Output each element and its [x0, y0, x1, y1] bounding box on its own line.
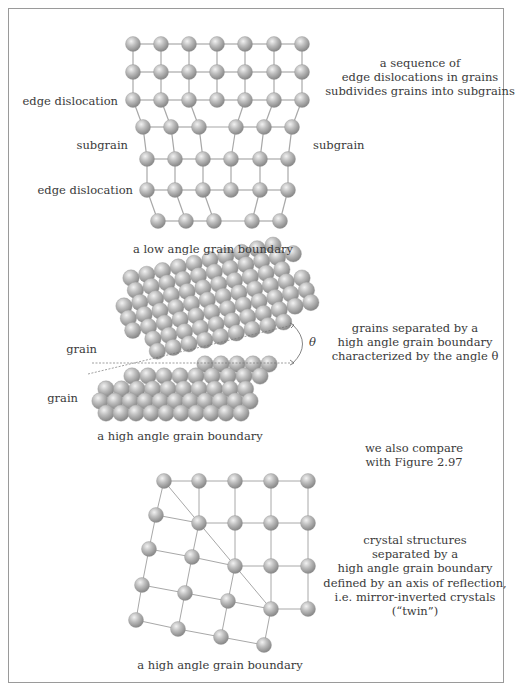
atom-icon — [295, 65, 310, 80]
atom-icon — [182, 65, 197, 80]
atom-icon — [168, 183, 183, 198]
description-line: a sequence of — [325, 56, 515, 70]
atom-icon — [165, 339, 181, 355]
atom-icon — [154, 93, 169, 108]
atom-icon — [196, 183, 211, 198]
atom-icon — [295, 37, 310, 52]
atom-icon — [142, 542, 157, 557]
atom-icon — [168, 152, 183, 167]
atom-icon — [154, 65, 169, 80]
atom-icon — [182, 93, 197, 108]
atom-icon — [210, 65, 225, 80]
low-angle-description: a sequence of edge dislocations in grain… — [325, 56, 515, 99]
grain-label-bottom: grain — [47, 391, 78, 405]
atom-icon — [238, 93, 253, 108]
atom-icon — [192, 120, 207, 135]
description-line: high angle grain boundary — [332, 335, 499, 349]
atom-icon — [281, 183, 296, 198]
atom-icon — [264, 516, 279, 531]
atom-icon — [207, 214, 222, 229]
atom-icon — [135, 578, 150, 593]
atom-icon — [192, 474, 207, 489]
atom-icon — [224, 183, 239, 198]
atom-icon — [149, 343, 165, 359]
atom-icon — [264, 559, 279, 574]
atom-icon — [173, 405, 189, 421]
note-line: we also compare — [365, 441, 463, 455]
atom-icon — [267, 65, 282, 80]
atom-icon — [264, 474, 279, 489]
twin-description: crystal structures separated by a high a… — [323, 533, 506, 618]
atom-icon — [214, 630, 229, 645]
high-angle-caption: a high angle grain boundary — [97, 429, 263, 443]
atom-icon — [301, 559, 316, 574]
atom-icon — [164, 120, 179, 135]
atom-icon — [98, 405, 114, 421]
atom-icon — [125, 322, 141, 338]
atom-icon — [179, 214, 194, 229]
atom-icon — [158, 405, 174, 421]
atom-icon — [140, 183, 155, 198]
description-line: characterized by the angle θ — [332, 349, 499, 363]
atom-icon — [301, 602, 316, 617]
atom-icon — [157, 474, 172, 489]
atom-icon — [212, 328, 228, 344]
atom-icon — [228, 516, 243, 531]
atom-icon — [287, 298, 303, 314]
atom-icon — [267, 37, 282, 52]
atom-icon — [275, 314, 291, 330]
high-angle-description: grains separated by a high angle grain b… — [332, 321, 499, 364]
atom-icon — [228, 474, 243, 489]
atom-icon — [113, 405, 129, 421]
atom-icon — [203, 405, 219, 421]
arrowhead-bottom-icon — [290, 360, 294, 365]
atom-icon — [182, 37, 197, 52]
atom-icon — [154, 37, 169, 52]
atom-icon — [210, 93, 225, 108]
subgrain-label-right: subgrain — [313, 138, 364, 152]
atom-icon — [224, 152, 239, 167]
atom-icon — [128, 405, 144, 421]
atom-icon — [233, 405, 249, 421]
atom-icon — [151, 214, 166, 229]
description-line: i.e. mirror-inverted crystals — [323, 590, 506, 604]
atom-icon — [129, 613, 144, 628]
low-angle-caption: a low angle grain boundary — [133, 242, 293, 256]
atom-icon — [245, 214, 260, 229]
description-line: crystal structures — [323, 533, 506, 547]
atom-icon — [181, 336, 197, 352]
atom-icon — [238, 65, 253, 80]
atom-icon — [185, 550, 200, 565]
atom-icon — [149, 508, 164, 523]
atom-icon — [295, 93, 310, 108]
atom-icon — [228, 559, 243, 574]
grain-label-top: grain — [66, 342, 97, 356]
atom-icon — [136, 120, 151, 135]
figure-reference-note: we also compare with Figure 2.97 — [365, 441, 463, 469]
atom-icon — [257, 638, 272, 653]
atom-icon — [143, 405, 159, 421]
atom-icon — [285, 120, 300, 135]
low-angle-lattice-atoms — [126, 37, 310, 229]
atom-icon — [178, 586, 193, 601]
subgrain-label-left: subgrain — [77, 138, 128, 152]
high-angle-grains — [92, 237, 319, 421]
edge-dislocation-label-top: edge dislocation — [23, 94, 118, 108]
atom-icon — [188, 405, 204, 421]
description-line: subdivides grains into subgrains — [325, 84, 515, 98]
atom-icon — [210, 37, 225, 52]
atom-icon — [260, 317, 276, 333]
atom-icon — [218, 405, 234, 421]
atom-icon — [192, 516, 207, 531]
atom-icon — [140, 152, 155, 167]
atom-icon — [303, 294, 319, 310]
note-line: with Figure 2.97 — [365, 455, 463, 469]
theta-label: θ — [309, 335, 316, 349]
description-line: separated by a — [323, 547, 506, 561]
description-line: defined by an axis of reflection, — [323, 576, 506, 590]
description-line: high angle grain boundary — [323, 561, 506, 575]
atom-icon — [301, 516, 316, 531]
atom-icon — [264, 602, 279, 617]
atom-icon — [257, 120, 272, 135]
twin-lattice-bonds — [136, 481, 308, 645]
